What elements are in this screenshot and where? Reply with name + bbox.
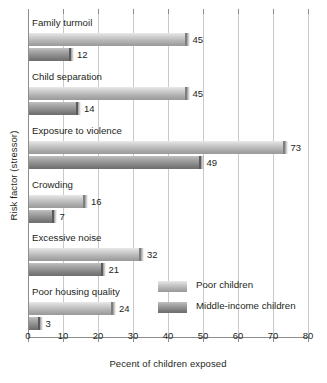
bar-value-label: 3 <box>46 318 51 329</box>
bar <box>29 33 187 46</box>
bar <box>29 248 141 261</box>
x-tick-top <box>98 9 99 14</box>
bar-value-label: 45 <box>193 88 204 99</box>
category-label: Crowding <box>32 179 73 190</box>
legend-swatch-dark <box>158 302 187 313</box>
legend-label: Middle-income children <box>196 300 296 311</box>
y-axis-title: Risk factor (stressor) <box>8 86 19 266</box>
category-label: Child separation <box>32 71 102 82</box>
x-tick-label: 20 <box>85 330 111 341</box>
x-tick-label: 0 <box>15 330 41 341</box>
bar-edge-shadow <box>285 141 288 154</box>
x-tick-top <box>238 9 239 14</box>
x-tick-top <box>203 9 204 14</box>
bar <box>29 48 71 61</box>
bar-edge-shadow <box>54 210 57 223</box>
category-label: Exposure to violence <box>32 125 122 136</box>
x-axis-title: Pecent of children exposed <box>28 358 308 369</box>
bar <box>29 102 78 115</box>
category-label: Poor housing quality <box>32 286 120 297</box>
gridline <box>133 14 134 337</box>
bar <box>29 156 201 169</box>
bar-edge-shadow <box>141 248 144 261</box>
bar-edge-shadow <box>78 102 81 115</box>
bar-edge-shadow <box>40 317 43 330</box>
category-label: Family turmoil <box>32 17 92 28</box>
bar <box>29 141 285 154</box>
bar-value-label: 73 <box>291 142 302 153</box>
x-tick-label: 30 <box>120 330 146 341</box>
x-tick-label: 10 <box>50 330 76 341</box>
x-tick-top <box>28 9 29 14</box>
bar <box>29 87 187 100</box>
bar-value-label: 16 <box>91 196 102 207</box>
bar <box>29 195 85 208</box>
bar-edge-shadow <box>187 33 190 46</box>
x-tick-label: 70 <box>260 330 286 341</box>
x-tick-label: 80 <box>295 330 321 341</box>
bar-edge-shadow <box>103 263 106 276</box>
legend-swatch-light <box>158 281 187 292</box>
bar-edge-shadow <box>85 195 88 208</box>
bar-value-label: 24 <box>119 303 130 314</box>
bar <box>29 210 54 223</box>
bar-edge-shadow <box>113 302 116 315</box>
gridline <box>273 14 274 337</box>
y-axis-line <box>28 14 29 337</box>
x-tick-top <box>308 9 309 14</box>
x-tick-top <box>168 9 169 14</box>
bar-value-label: 45 <box>193 34 204 45</box>
gridline <box>308 14 309 337</box>
x-tick-label: 50 <box>190 330 216 341</box>
category-label: Excessive noise <box>32 232 101 243</box>
bar <box>29 317 40 330</box>
bar-chart: Risk factor (stressor) Family turmoil451… <box>0 0 327 383</box>
x-tick-top <box>63 9 64 14</box>
x-tick-label: 40 <box>155 330 181 341</box>
bar-value-label: 14 <box>84 103 95 114</box>
bar-edge-shadow <box>201 156 204 169</box>
bar-value-label: 12 <box>77 49 88 60</box>
x-tick-top <box>273 9 274 14</box>
legend-label: Poor children <box>196 279 253 290</box>
bar-edge-shadow <box>71 48 74 61</box>
bar <box>29 263 103 276</box>
bar-value-label: 7 <box>60 211 65 222</box>
bar-edge-shadow <box>187 87 190 100</box>
bar-value-label: 49 <box>207 157 218 168</box>
bar <box>29 302 113 315</box>
bar-value-label: 32 <box>147 249 158 260</box>
x-tick-top <box>133 9 134 14</box>
x-tick-label: 60 <box>225 330 251 341</box>
bar-value-label: 21 <box>109 264 120 275</box>
